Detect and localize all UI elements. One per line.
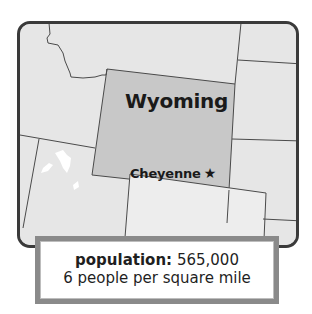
capital-label: Cheyenne★	[130, 165, 216, 181]
map-frame: Wyoming Cheyenne★	[17, 21, 299, 248]
capital-star-icon: ★	[204, 165, 216, 181]
population-label: population:	[75, 251, 172, 269]
map-svg	[17, 21, 299, 248]
density-line: 6 people per square mile	[40, 269, 274, 287]
info-box: population: 565,000 6 people per square …	[35, 236, 279, 304]
state-name-label: Wyoming	[125, 89, 228, 113]
population-value: 565,000	[177, 251, 239, 269]
population-line: population: 565,000	[40, 251, 274, 269]
capital-name: Cheyenne	[130, 166, 201, 181]
